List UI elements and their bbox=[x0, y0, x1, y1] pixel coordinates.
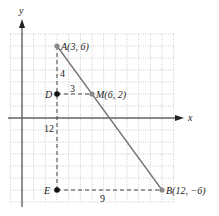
label-e: E bbox=[43, 185, 50, 196]
measure-ae: 12 bbox=[44, 123, 54, 134]
measure-eb: 9 bbox=[100, 193, 105, 204]
y-axis-arrow-icon bbox=[19, 19, 25, 28]
coordinate-plane: x y A(3, 6) M(6, 2) B(12, −6) D E 4 3 12 bbox=[0, 0, 219, 216]
y-axis-label: y bbox=[18, 5, 24, 16]
label-b-text: B(12, −6) bbox=[166, 185, 206, 197]
label-a-text: A(3, 6) bbox=[60, 41, 89, 53]
measure-dm: 3 bbox=[70, 83, 75, 94]
point-a bbox=[54, 43, 59, 48]
label-d: D bbox=[44, 89, 53, 100]
measure-ad: 4 bbox=[60, 68, 65, 79]
point-d bbox=[54, 91, 60, 97]
point-labels: A(3, 6) M(6, 2) B(12, −6) D E bbox=[43, 41, 206, 197]
point-m bbox=[89, 91, 94, 96]
label-a: A(3, 6) bbox=[60, 41, 89, 53]
x-axis-arrow-icon bbox=[175, 115, 184, 121]
label-b: B(12, −6) bbox=[166, 185, 206, 197]
label-m-text: M(6, 2) bbox=[95, 89, 127, 101]
point-b bbox=[159, 187, 164, 192]
x-axis-label: x bbox=[187, 112, 193, 123]
label-m: M(6, 2) bbox=[95, 89, 127, 101]
point-e bbox=[54, 187, 60, 193]
